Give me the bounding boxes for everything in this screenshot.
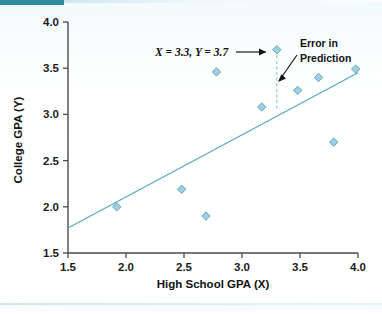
error-label-line2: Prediction <box>300 52 351 64</box>
annotation-error-in-prediction: Error in Prediction <box>278 37 351 82</box>
data-point-marker <box>212 68 220 76</box>
data-point-marker <box>351 65 359 73</box>
y-tick-label: 3.0 <box>43 108 59 120</box>
point-coordinates-label: X = 3.3, Y = 3.7 <box>154 46 229 58</box>
data-point-marker <box>293 86 301 94</box>
y-tick-label: 4.0 <box>43 16 59 28</box>
y-axis-title: College GPA (Y) <box>12 96 24 183</box>
x-axis-title: High School GPA (X) <box>157 278 270 290</box>
error-leader-arrow <box>281 55 297 78</box>
x-tick-label: 1.5 <box>60 261 77 273</box>
y-tick-label: 3.5 <box>43 62 60 74</box>
error-arrowhead <box>278 74 286 82</box>
data-point-marker <box>177 185 185 193</box>
x-tick-label: 2.5 <box>176 261 193 273</box>
bottom-fade <box>0 305 382 314</box>
annotation-point-coordinates: X = 3.3, Y = 3.7 <box>154 46 266 58</box>
y-tick-label: 2.0 <box>43 201 59 213</box>
y-tick-label: 1.5 <box>43 247 60 259</box>
coordinates-arrowhead <box>259 49 266 56</box>
data-point-marker <box>258 103 266 111</box>
y-tick-label: 2.5 <box>43 155 60 167</box>
regression-line <box>68 73 358 228</box>
error-label-line1: Error in <box>300 37 338 49</box>
data-point-marker <box>314 73 322 81</box>
data-point-marker <box>273 46 281 54</box>
data-point-marker <box>329 138 337 146</box>
scatter-plot: 1.52.02.53.03.54.0 1.52.02.53.03.54.0 X … <box>0 0 382 314</box>
x-tick-label: 2.0 <box>118 261 134 273</box>
y-axis-ticks: 1.52.02.53.03.54.0 <box>43 16 68 259</box>
x-tick-label: 3.5 <box>292 261 309 273</box>
x-axis-ticks: 1.52.02.53.03.54.0 <box>60 253 366 273</box>
data-points <box>113 46 360 221</box>
x-tick-label: 4.0 <box>350 261 366 273</box>
data-point-marker <box>202 212 210 220</box>
figure-canvas: 1.52.02.53.03.54.0 1.52.02.53.03.54.0 X … <box>0 0 382 314</box>
x-tick-label: 3.0 <box>234 261 250 273</box>
